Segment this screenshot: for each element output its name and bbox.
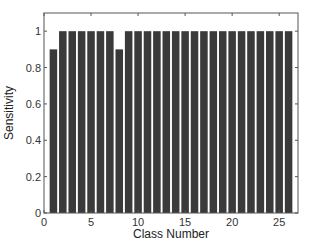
bar	[266, 31, 274, 213]
bar	[144, 31, 152, 213]
x-tick-label: 5	[88, 216, 94, 228]
bar	[50, 49, 58, 213]
y-axis-label: Sensitivity	[2, 86, 16, 140]
bar	[172, 31, 180, 213]
x-tick-label: 0	[41, 216, 47, 228]
bar	[78, 31, 86, 213]
bar	[200, 31, 208, 213]
x-tick-label: 20	[226, 216, 238, 228]
bar	[106, 31, 114, 213]
bar	[125, 31, 133, 213]
y-tick-label: 0.2	[26, 171, 41, 183]
y-tick-label: 0	[35, 207, 41, 219]
bar	[97, 31, 105, 213]
bar	[247, 31, 255, 213]
bar	[134, 31, 142, 213]
bar	[257, 31, 265, 213]
bar	[181, 31, 189, 213]
bar	[191, 31, 199, 213]
bar	[275, 31, 283, 213]
bar	[210, 31, 218, 213]
bars-group	[50, 31, 293, 213]
bar	[163, 31, 171, 213]
bar	[115, 49, 123, 213]
bar	[219, 31, 227, 213]
bar	[228, 31, 236, 213]
bar	[238, 31, 246, 213]
bar	[68, 31, 76, 213]
y-tick-label: 0.8	[26, 62, 41, 74]
y-tick-label: 0.6	[26, 98, 41, 110]
bar	[87, 31, 95, 213]
x-axis-label: Class Number	[133, 227, 209, 241]
bar	[285, 31, 293, 213]
bar	[59, 31, 67, 213]
y-tick-label: 0.4	[26, 134, 41, 146]
bar	[153, 31, 161, 213]
x-tick-label: 25	[273, 216, 285, 228]
y-tick-label: 1	[35, 25, 41, 37]
bar-chart: 0510152025 00.20.40.60.81 Class Number S…	[0, 0, 313, 251]
